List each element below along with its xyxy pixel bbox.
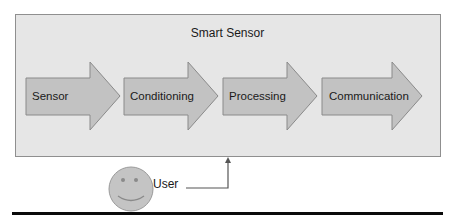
stage-arrow-conditioning: Conditioning	[124, 62, 218, 130]
stage-label: Conditioning	[130, 90, 194, 102]
smart-sensor-diagram: Smart Sensor Sensor Conditioning Process…	[0, 0, 455, 223]
bottom-divider	[12, 212, 443, 215]
stage-arrow-communication: Communication	[322, 62, 422, 130]
user-connector-arrow	[186, 157, 231, 188]
stage-arrow-sensor: Sensor	[26, 62, 120, 130]
stage-label: Communication	[329, 90, 409, 102]
stage-arrow-processing: Processing	[223, 62, 317, 130]
stage-label: Processing	[229, 90, 286, 102]
diagram-canvas: Sensor Conditioning Processing Communica…	[0, 0, 455, 223]
user-label: User	[153, 177, 178, 191]
stage-label: Sensor	[32, 90, 69, 102]
smiley-face-icon	[109, 167, 153, 211]
